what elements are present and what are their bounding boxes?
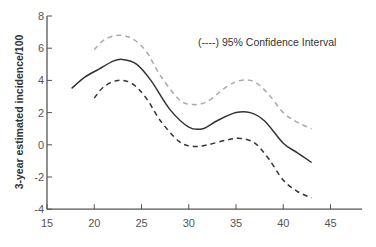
y-tick-label: 8 bbox=[38, 10, 44, 22]
x-tick-label: 40 bbox=[277, 217, 289, 229]
legend-confidence-interval: (----) 95% Confidence Interval bbox=[198, 36, 336, 48]
x-tick-label: 20 bbox=[88, 217, 100, 229]
x-tick-label: 35 bbox=[230, 217, 242, 229]
y-axis: 86420-2-4 bbox=[34, 10, 52, 215]
x-tick-label: 15 bbox=[41, 217, 53, 229]
x-axis: 15202530354045 bbox=[41, 204, 362, 229]
y-tick-label: 0 bbox=[38, 139, 44, 151]
series-layer bbox=[72, 35, 312, 198]
y-tick-label: -2 bbox=[34, 171, 44, 183]
y-tick-label: 2 bbox=[38, 107, 44, 119]
line-chart: 86420-2-4 15202530354045 3-year estimate… bbox=[0, 0, 376, 247]
x-tick-label: 30 bbox=[183, 217, 195, 229]
y-tick-label: 4 bbox=[38, 74, 44, 86]
series-estimate bbox=[72, 59, 312, 162]
x-tick-label: 45 bbox=[324, 217, 336, 229]
y-tick-label: 6 bbox=[38, 42, 44, 54]
y-axis-title: 3-year estimated incidence/100 bbox=[13, 35, 25, 190]
x-tick-label: 25 bbox=[135, 217, 147, 229]
y-tick-label: -4 bbox=[34, 203, 44, 215]
